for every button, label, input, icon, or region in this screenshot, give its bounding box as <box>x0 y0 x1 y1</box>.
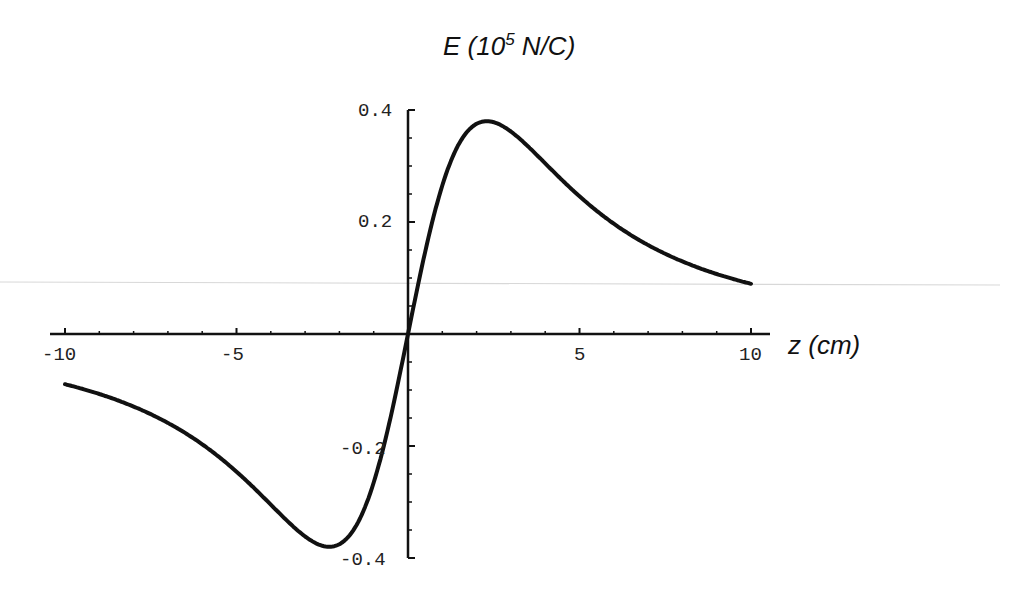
title-exponent: 5 <box>505 30 514 49</box>
y-tick-label: -0.4 <box>340 549 386 571</box>
scan-artifact-line <box>0 282 1000 285</box>
title-text: E (10 <box>443 31 505 61</box>
x-tick-label: 10 <box>739 344 762 366</box>
plot-area <box>0 0 1015 600</box>
title-units: N/C) <box>515 31 576 61</box>
y-tick-label: 0.4 <box>358 100 392 122</box>
x-axis-label: z (cm) <box>788 330 860 361</box>
x-tick-label: -5 <box>221 344 244 366</box>
x-tick-label: 5 <box>574 344 585 366</box>
y-tick-label: -0.2 <box>340 438 386 460</box>
y-tick-label: 0.2 <box>358 211 392 233</box>
x-tick-label: -10 <box>42 344 76 366</box>
chart-title: E (105 N/C) <box>443 30 575 62</box>
